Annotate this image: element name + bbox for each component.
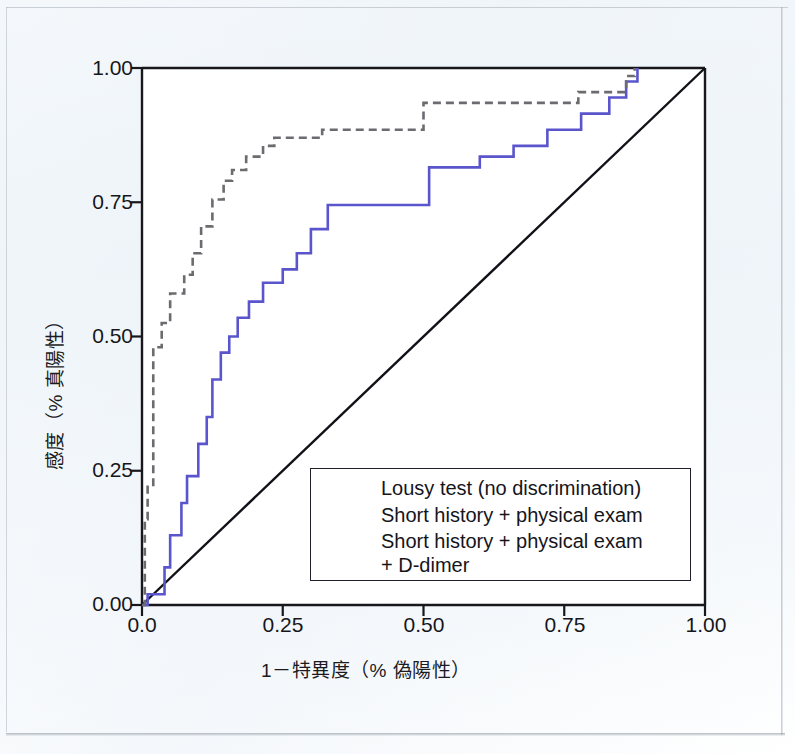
y-tick-label: 1.00	[57, 56, 133, 80]
x-tick-label: 0.50	[379, 613, 469, 637]
y-tick-label: 0.75	[57, 190, 133, 214]
roc-curve-chart	[0, 0, 795, 754]
legend-label: Lousy test (no discrimination)	[381, 478, 641, 498]
chart-legend: Lousy test (no discrimination) Short his…	[310, 468, 691, 581]
legend-label-continuation: + D-dimer	[381, 554, 469, 577]
x-tick-label: 1.00	[661, 613, 751, 637]
legend-label: Short history + physical exam	[381, 531, 643, 551]
x-tick-label: 0.25	[238, 613, 328, 637]
legend-item-history-physical: Short history + physical exam	[321, 502, 643, 527]
y-tick-label: 0.50	[57, 324, 133, 348]
x-tick-label: 0.75	[520, 613, 610, 637]
y-tick-label: 0.25	[57, 458, 133, 482]
legend-item-history-physical-ddimer: Short history + physical exam	[321, 528, 643, 553]
x-tick-label: 0.0	[97, 613, 187, 637]
legend-item-lousy-test: Lousy test (no discrimination)	[321, 475, 641, 500]
x-axis-label: 1－特異度（% 偽陽性）	[261, 655, 471, 682]
y-axis-label: 感度（% 真陽性）	[40, 310, 67, 470]
legend-label: Short history + physical exam	[381, 505, 643, 525]
